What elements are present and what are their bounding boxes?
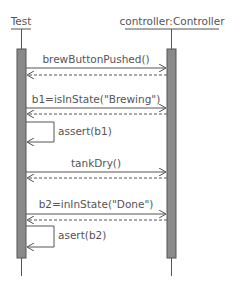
- activation-bar-controller: [167, 49, 176, 258]
- message-is-in-state-brewing: b1=isInState("Brewing"): [26, 93, 167, 114]
- message-label: tankDry(): [71, 157, 121, 169]
- message-brew-button-pushed: brewButtonPushed(): [26, 53, 167, 75]
- activation-bar-test: [17, 49, 26, 258]
- message-label: b2=inInState("Done"): [39, 198, 154, 210]
- participant-test: Test: [10, 15, 32, 276]
- self-call-assert-b2: asert(b2): [26, 226, 106, 247]
- self-call-assert-b1: assert(b1): [26, 122, 112, 142]
- participant-controller-label: controller:Controller: [119, 15, 225, 27]
- message-tank-dry: tankDry(): [26, 157, 167, 178]
- sequence-diagram: Test controller:Controller brewButtonPus…: [0, 0, 232, 287]
- message-label: asert(b2): [58, 229, 106, 241]
- message-label: brewButtonPushed(): [42, 53, 149, 65]
- message-in-in-state-done: b2=inInState("Done"): [26, 198, 167, 220]
- message-label: assert(b1): [58, 125, 112, 137]
- participant-test-label: Test: [10, 15, 32, 27]
- self-call-arrow: [26, 122, 54, 142]
- self-call-arrow: [26, 226, 54, 247]
- message-label: b1=isInState("Brewing"): [32, 93, 161, 105]
